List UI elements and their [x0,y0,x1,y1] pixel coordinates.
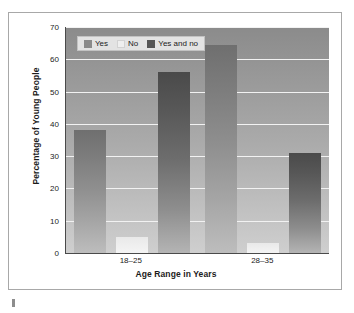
x-axis-group-label: 28–35 [251,256,273,265]
bar-yes-and-no-18–25 [158,72,190,253]
y-axis-tick-label: 70 [33,23,59,32]
plot-area [65,27,329,254]
legend-item-yes-and-no: Yes and no [147,39,198,48]
corner-artifact-mark [12,299,15,307]
bar-no-18–25 [116,237,148,253]
y-axis-tick-label: 40 [33,119,59,128]
bar-yes-and-no-28–35 [289,153,321,253]
y-axis-tick-label: 0 [33,249,59,258]
legend-item-yes: Yes [84,39,108,48]
y-axis-tick-label: 60 [33,55,59,64]
legend-label: No [128,39,138,48]
legend-label: Yes [95,39,108,48]
gridline [66,27,329,28]
gridline [66,124,329,125]
bar-no-28–35 [247,243,279,253]
chart-legend: YesNoYes and no [77,36,205,51]
chart-figure-card: Percentage of Young People 0102030405060… [8,12,342,290]
bar-yes-28–35 [205,45,237,253]
legend-swatch-icon [117,40,125,48]
bar-yes-18–25 [74,130,106,253]
gridline [66,59,329,60]
y-axis-tick-label: 50 [33,87,59,96]
y-axis-tick-label: 20 [33,184,59,193]
legend-swatch-icon [84,40,92,48]
gridline [66,92,329,93]
y-axis-tick-label: 30 [33,152,59,161]
legend-swatch-icon [147,40,155,48]
x-axis-group-label: 18–25 [120,256,142,265]
legend-label: Yes and no [158,39,198,48]
x-axis-title: Age Range in Years [9,269,343,279]
legend-item-no: No [117,39,138,48]
y-axis-tick-label: 10 [33,216,59,225]
